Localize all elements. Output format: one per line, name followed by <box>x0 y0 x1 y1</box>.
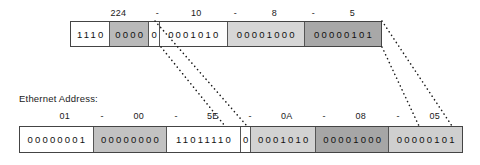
ip-bit-cell: 00001000 <box>228 22 305 46</box>
mac-bit-cell: 0001010 <box>251 127 316 152</box>
ip-octet-label: 224 <box>96 7 140 20</box>
mac-bit-cell: 00001000 <box>316 127 390 152</box>
ip-bit-bar: 11100000000010100000100000000101 <box>70 21 382 47</box>
mac-bit-cell: 00000000 <box>94 127 168 152</box>
mac-octet-separator: - <box>312 110 336 123</box>
ip-octet-separator: - <box>301 7 325 20</box>
mac-octet-label-strip: 01-00-5E-0A-08-05 <box>19 110 463 123</box>
mac-bit-bar: 0000000100000000110111100000101000001000… <box>19 126 463 153</box>
mac-octet-separator: - <box>386 110 410 123</box>
mac-octet-separator: - <box>238 110 262 123</box>
ip-octet-label: 10 <box>174 7 218 20</box>
ethernet-address-title: Ethernet Address: <box>19 93 98 104</box>
mac-octet-label: 00 <box>117 110 161 123</box>
ip-octet-label: 8 <box>252 7 296 20</box>
ip-octet-label: 5 <box>330 7 374 20</box>
ip-bit-cell: 0000 <box>110 22 149 46</box>
mac-octet-label: 0A <box>265 110 309 123</box>
mac-bit-cell: 00000101 <box>389 127 462 152</box>
mac-octet-separator: - <box>164 110 188 123</box>
mac-octet-label: 08 <box>339 110 383 123</box>
ip-bit-cell: 00000101 <box>305 22 381 46</box>
ip-bit-cell: 0 <box>149 22 160 46</box>
diagram-canvas: 224-10-8-5 11100000000010100000100000000… <box>0 0 480 165</box>
mac-octet-label: 05 <box>413 110 457 123</box>
ip-bit-cell: 1110 <box>71 22 110 46</box>
mac-bit-cell: 11011110 <box>167 127 241 152</box>
ip-bit-cell: 0001010 <box>160 22 228 46</box>
mac-bit-cell: 00000001 <box>20 127 94 152</box>
mac-octet-label: 01 <box>43 110 87 123</box>
ip-octet-separator: - <box>145 7 169 20</box>
mac-octet-separator: - <box>90 110 114 123</box>
ip-octet-separator: - <box>223 7 247 20</box>
ip-octet-label-strip: 224-10-8-5 <box>70 7 382 20</box>
mac-bit-cell: 0 <box>241 127 252 152</box>
mac-octet-label: 5E <box>191 110 235 123</box>
